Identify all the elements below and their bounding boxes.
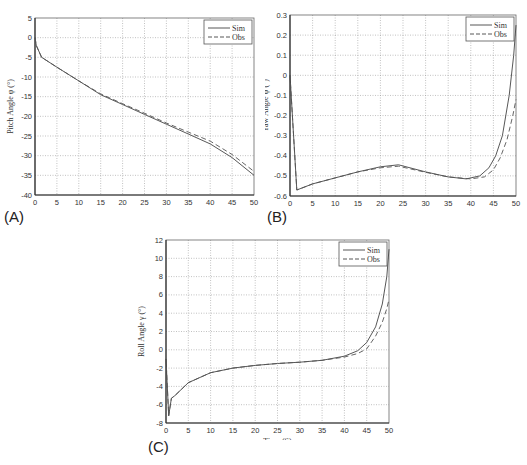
legend-label-sim: Sim	[367, 246, 381, 255]
x-tick-label: 20	[251, 426, 259, 435]
x-tick-label: 50	[250, 198, 258, 207]
y-tick-label: 6	[159, 290, 163, 299]
x-tick-label: 45	[228, 198, 236, 207]
y-tick-label: 0	[28, 33, 32, 42]
y-tick-label: -10	[21, 73, 32, 82]
x-tick-label: 25	[399, 199, 407, 208]
x-tick-label: 10	[75, 198, 83, 207]
legend-label-sim: Sim	[494, 21, 508, 30]
x-tick-label: 5	[186, 426, 190, 435]
panel-label-c: (C)	[148, 438, 169, 455]
x-tick-label: 5	[55, 198, 59, 207]
x-tick-label: 20	[118, 198, 126, 207]
chart-b: 051015202530354045500.30.20.10-0.1-0.2-0…	[265, 0, 527, 230]
y-tick-label: -8	[156, 419, 163, 428]
x-tick-label: 30	[421, 199, 429, 208]
y-tick-label: 0	[159, 345, 163, 354]
y-tick-label: -4	[156, 382, 163, 391]
x-tick-label: 10	[331, 199, 339, 208]
x-tick-label: 20	[376, 199, 384, 208]
y-axis-label: Pitch Angle φ (°)	[6, 79, 15, 134]
y-tick-label: -40	[21, 191, 32, 200]
y-tick-label: 8	[159, 272, 163, 281]
x-tick-label: 35	[184, 198, 192, 207]
y-tick-label: -2	[156, 364, 163, 373]
chart-c: 05101520253035404550121086420-2-4-6-8Tim…	[130, 230, 400, 465]
x-tick-label: 50	[385, 426, 393, 435]
x-tick-label: 15	[354, 199, 362, 208]
y-tick-label: 10	[155, 254, 163, 263]
y-axis-label: Roll Angle γ (°)	[137, 306, 146, 357]
x-tick-label: 15	[97, 198, 105, 207]
x-tick-label: 0	[33, 198, 37, 207]
x-tick-label: 15	[229, 426, 237, 435]
y-tick-label: -0.6	[274, 192, 287, 201]
y-tick-label: -0.4	[274, 151, 287, 160]
chart-a-plot: 0510152025303540455050-5-10-15-20-25-30-…	[0, 0, 265, 210]
x-axis-label: Time (S)	[130, 209, 159, 210]
chart-a: 0510152025303540455050-5-10-15-20-25-30-…	[0, 0, 265, 230]
y-tick-label: 12	[155, 236, 163, 245]
x-tick-label: 30	[296, 426, 304, 435]
x-tick-label: 45	[363, 426, 371, 435]
legend-label-obs: Obs	[494, 30, 507, 39]
x-axis-label: Time (S)	[263, 437, 292, 440]
x-tick-label: 0	[288, 199, 292, 208]
y-tick-label: -25	[21, 132, 32, 141]
legend-label-obs: Obs	[232, 33, 245, 42]
y-tick-label: -0.5	[274, 171, 287, 180]
y-tick-label: -5	[25, 53, 32, 62]
legend-label-obs: Obs	[367, 255, 380, 264]
y-tick-label: 0.2	[277, 31, 287, 40]
x-tick-label: 30	[162, 198, 170, 207]
x-tick-label: 50	[512, 199, 520, 208]
y-tick-label: -20	[21, 112, 32, 121]
x-tick-label: 25	[273, 426, 281, 435]
y-tick-label: 2	[159, 327, 163, 336]
y-tick-label: -0.3	[274, 131, 287, 140]
y-tick-label: 0.1	[277, 51, 287, 60]
panel-label-a: (A)	[4, 208, 24, 225]
x-tick-label: 25	[140, 198, 148, 207]
y-tick-label: 0	[283, 71, 287, 80]
y-tick-label: 5	[28, 14, 32, 23]
y-tick-label: 0.3	[277, 11, 287, 20]
y-tick-label: -0.1	[274, 91, 287, 100]
x-tick-label: 35	[318, 426, 326, 435]
x-tick-label: 35	[444, 199, 452, 208]
y-tick-label: -30	[21, 151, 32, 160]
chart-b-plot: 051015202530354045500.30.20.10-0.1-0.2-0…	[265, 0, 527, 210]
x-tick-label: 0	[164, 426, 168, 435]
chart-c-plot: 05101520253035404550121086420-2-4-6-8Tim…	[130, 230, 400, 440]
legend-label-sim: Sim	[232, 24, 246, 33]
y-tick-label: 4	[159, 309, 163, 318]
x-tick-label: 40	[467, 199, 475, 208]
y-tick-label: -15	[21, 92, 32, 101]
y-tick-label: -6	[156, 400, 163, 409]
panel-label-b: (B)	[267, 208, 287, 225]
x-tick-label: 10	[206, 426, 214, 435]
x-tick-label: 5	[311, 199, 315, 208]
x-tick-label: 45	[489, 199, 497, 208]
y-tick-label: -0.2	[274, 111, 287, 120]
y-axis-label: Yaw Angle ψ (°)	[265, 79, 270, 132]
x-tick-label: 40	[206, 198, 214, 207]
x-tick-label: 40	[340, 426, 348, 435]
y-tick-label: -35	[21, 171, 32, 180]
